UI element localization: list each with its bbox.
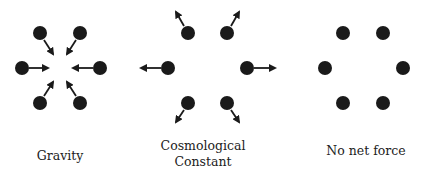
gravity-label: Gravity <box>37 148 84 163</box>
particle-dot <box>181 26 195 40</box>
cosmological-constant-label-line1: Cosmological <box>161 138 246 153</box>
particle-dot <box>73 96 87 110</box>
force-arrow-icon <box>231 12 239 26</box>
particle-dot <box>33 96 47 110</box>
cosmological-constant-label-line2: Constant <box>174 154 231 169</box>
particle-dot <box>396 61 410 75</box>
no-net-force-label: No net force <box>326 143 405 158</box>
particle-dot <box>376 26 390 40</box>
particle-dot <box>336 96 350 110</box>
particle-dot <box>161 61 175 75</box>
particle-dot <box>33 26 47 40</box>
particle-dot <box>318 61 332 75</box>
no-net-force-panel <box>318 26 410 110</box>
particle-dot <box>220 96 234 110</box>
particle-dot <box>240 61 254 75</box>
force-arrow-icon <box>176 12 184 26</box>
particle-dot <box>376 96 390 110</box>
cosmological-constant-panel <box>141 12 275 122</box>
particle-dot <box>336 26 350 40</box>
force-arrow-icon <box>44 40 53 54</box>
force-arrow-icon <box>44 82 53 96</box>
particle-dot <box>93 61 107 75</box>
force-arrow-icon <box>231 110 239 122</box>
particle-dot <box>73 26 87 40</box>
particle-dot <box>181 96 195 110</box>
force-arrow-icon <box>67 82 76 96</box>
particle-dot <box>15 61 29 75</box>
force-arrow-icon <box>176 110 184 122</box>
particle-dot <box>220 26 234 40</box>
gravity-panel <box>15 26 107 110</box>
force-diagram: Gravity Cosmological Constant No net for… <box>0 0 421 175</box>
force-arrow-icon <box>67 40 76 54</box>
